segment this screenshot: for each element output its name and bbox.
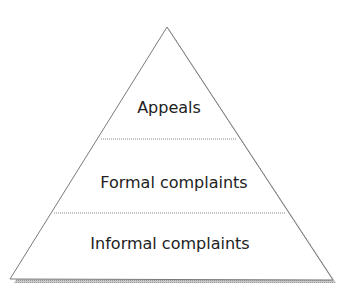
- level-label-formal-complaints: Formal complaints: [100, 173, 247, 192]
- level-label-appeals: Appeals: [137, 98, 201, 117]
- complaints-pyramid-diagram: Appeals Formal complaints Informal compl…: [0, 0, 352, 302]
- level-label-informal-complaints: Informal complaints: [90, 234, 249, 253]
